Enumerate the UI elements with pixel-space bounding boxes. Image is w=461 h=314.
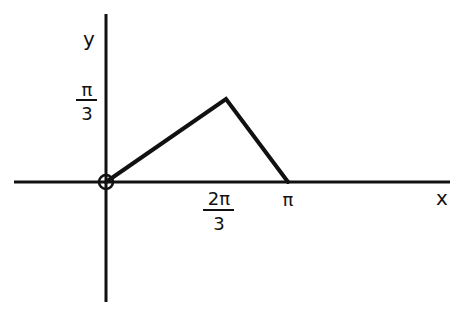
x-tick-2pi-over-3: 2π 3 [203,188,234,234]
y-tick-pi-over-3: π 3 [76,79,97,124]
graph-polyline [106,99,288,182]
y-tick-numerator: π [82,79,93,100]
function-graph: y x π 3 2π 3 π [0,0,461,314]
x-tick-pi: π [283,189,294,210]
x-tick-denominator: 3 [213,213,224,234]
x-axis-label: x [436,186,448,210]
y-axis-label: y [83,27,95,51]
y-tick-denominator: 3 [81,103,92,124]
x-tick-numerator: 2π [208,188,230,209]
